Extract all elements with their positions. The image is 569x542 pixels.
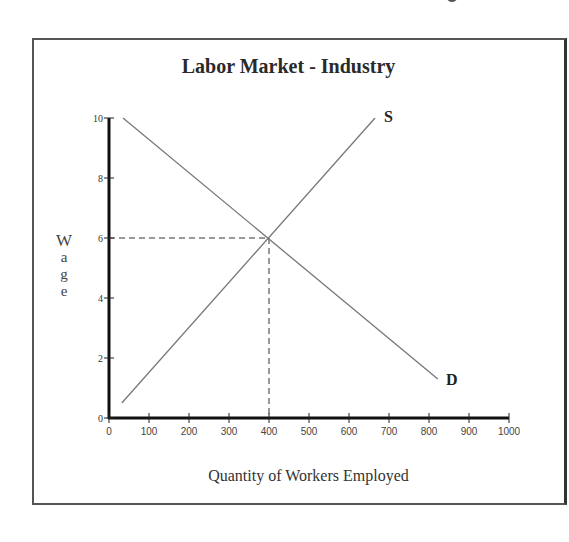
x-tick-label: 300 xyxy=(221,426,238,437)
x-tick-label: 1000 xyxy=(498,426,521,437)
supply-label: S xyxy=(384,108,393,125)
y-tick-label: 8 xyxy=(98,173,103,184)
x-tick-label: 800 xyxy=(421,426,438,437)
supply-curve xyxy=(122,118,375,403)
y-tick-label: 0 xyxy=(98,413,103,424)
x-axis-label: Quantity of Workers Employed xyxy=(0,467,569,485)
x-tick-label: 600 xyxy=(341,426,358,437)
plot-area: 024681001002003004005006007008009001000S… xyxy=(0,0,569,542)
x-tick-label: 700 xyxy=(381,426,398,437)
demand-curve xyxy=(123,118,438,379)
x-tick-label: 100 xyxy=(141,426,158,437)
y-tick-label: 10 xyxy=(93,113,103,124)
x-tick-label: 0 xyxy=(106,426,112,437)
y-tick-label: 6 xyxy=(98,233,103,244)
x-tick-label: 400 xyxy=(261,426,278,437)
demand-label: D xyxy=(446,371,458,388)
x-tick-label: 900 xyxy=(461,426,478,437)
y-tick-label: 4 xyxy=(98,293,103,304)
y-tick-label: 2 xyxy=(98,353,103,364)
x-tick-label: 500 xyxy=(301,426,318,437)
x-tick-label: 200 xyxy=(181,426,198,437)
